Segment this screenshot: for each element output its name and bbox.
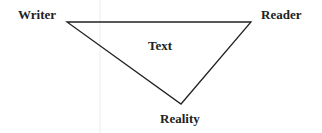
writer-label: Writer bbox=[18, 8, 56, 21]
reality-label: Reality bbox=[160, 112, 200, 125]
triangle-diagram: Writer Reader Text Reality bbox=[0, 0, 322, 133]
reader-label: Reader bbox=[261, 8, 301, 21]
text-label: Text bbox=[148, 39, 172, 52]
triangle-shape bbox=[67, 22, 251, 104]
